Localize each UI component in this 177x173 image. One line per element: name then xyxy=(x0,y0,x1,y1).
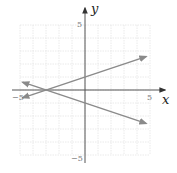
y-tick-max: 5 xyxy=(77,20,82,29)
axes xyxy=(12,8,165,163)
y-axis-label: y xyxy=(90,1,99,16)
y-tick-min: −5 xyxy=(71,154,83,163)
x-tick-min: −5 xyxy=(12,93,24,102)
x-tick-max: 5 xyxy=(147,93,152,102)
coordinate-plane: x y −5 5 5 −5 xyxy=(0,0,177,173)
x-axis-label: x xyxy=(162,92,170,107)
